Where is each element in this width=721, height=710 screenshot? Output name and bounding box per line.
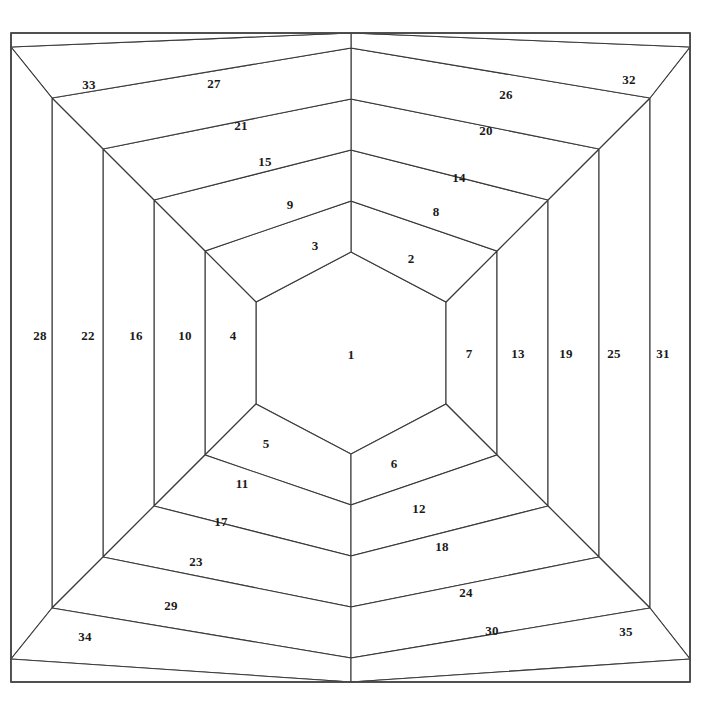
- piece-label-17: 17: [214, 514, 227, 530]
- piece-label-18: 18: [435, 539, 448, 555]
- piece-label-26: 26: [499, 87, 512, 103]
- piece-label-14: 14: [452, 170, 465, 186]
- piece-label-13: 13: [511, 346, 524, 362]
- piece-label-2: 2: [408, 251, 415, 267]
- piece-label-27: 27: [207, 76, 220, 92]
- piece-label-22: 22: [81, 328, 94, 344]
- piece-label-16: 16: [129, 328, 142, 344]
- piece-23: [52, 98, 103, 608]
- piece-11: [154, 200, 205, 506]
- piece-label-35: 35: [619, 624, 632, 640]
- piece-17: [103, 149, 154, 557]
- piece-label-28: 28: [33, 328, 46, 344]
- piece-label-6: 6: [391, 456, 398, 472]
- piece-label-10: 10: [178, 328, 191, 344]
- piece-label-1: 1: [348, 347, 355, 363]
- piece-label-20: 20: [479, 123, 492, 139]
- piece-label-5: 5: [263, 436, 270, 452]
- quilt-block-diagram: 1234567891011121314151617181920212223242…: [0, 0, 721, 710]
- piece-label-32: 32: [622, 72, 635, 88]
- piece-label-23: 23: [189, 554, 202, 570]
- piece-label-24: 24: [459, 585, 472, 601]
- piece-label-33: 33: [82, 77, 95, 93]
- piece-29: [11, 47, 52, 659]
- piece-label-19: 19: [559, 346, 572, 362]
- piece-14: [548, 149, 599, 557]
- piece-label-3: 3: [312, 238, 319, 254]
- piece-label-8: 8: [433, 204, 440, 220]
- piece-label-29: 29: [164, 598, 177, 614]
- piece-label-11: 11: [236, 476, 249, 492]
- piece-label-15: 15: [258, 154, 271, 170]
- piece-label-21: 21: [234, 118, 247, 134]
- piece-label-9: 9: [287, 197, 294, 213]
- piece-label-12: 12: [412, 501, 425, 517]
- piece-label-7: 7: [466, 346, 473, 362]
- piece-label-25: 25: [607, 346, 620, 362]
- piece-label-34: 34: [78, 629, 91, 645]
- piece-label-31: 31: [656, 346, 669, 362]
- piece-label-30: 30: [485, 623, 498, 639]
- piece-label-4: 4: [230, 328, 237, 344]
